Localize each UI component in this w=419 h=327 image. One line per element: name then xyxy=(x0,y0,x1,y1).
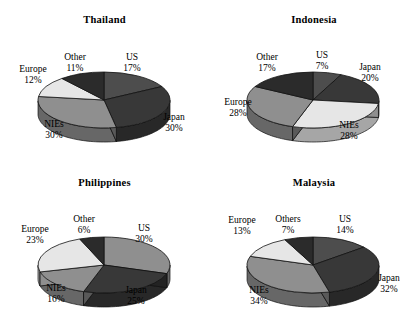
panel-indonesia: Indonesia Other 17% US 7% Japan 20% Euro… xyxy=(209,0,419,163)
label-indonesia-other: Other 17% xyxy=(245,52,289,74)
label-thailand-japan: Japan 30% xyxy=(152,112,196,134)
label-philippines-japan: Japan 25% xyxy=(114,285,158,307)
label-thailand-nies: NIEs 30% xyxy=(34,119,74,141)
label-malaysia-other: Others 7% xyxy=(265,214,311,236)
label-philippines-us: US 30% xyxy=(124,223,164,245)
label-philippines-europe: Europe 23% xyxy=(12,224,58,246)
label-indonesia-japan: Japan 20% xyxy=(348,62,392,84)
label-malaysia-us: US 14% xyxy=(325,214,365,236)
label-malaysia-europe: Europe 13% xyxy=(219,215,265,237)
label-philippines-other: Other 6% xyxy=(62,214,106,236)
label-indonesia-us: US 7% xyxy=(304,50,340,72)
label-philippines-nies: NIEs 16% xyxy=(36,283,76,305)
label-indonesia-nies: NIEs 28% xyxy=(329,120,369,142)
label-thailand-us: US 17% xyxy=(112,52,152,74)
label-thailand-other: Other 11% xyxy=(52,52,98,74)
panel-thailand: Thailand Other 11% US 17% Europe 12% NIE… xyxy=(0,0,209,163)
label-malaysia-nies: NIEs 34% xyxy=(239,285,279,307)
label-malaysia-japan: Japan 32% xyxy=(367,273,411,295)
panel-malaysia: Malaysia Europe 13% Others 7% US 14% NIE… xyxy=(209,163,419,327)
label-indonesia-europe: Europe 28% xyxy=(215,97,261,119)
panel-philippines: Philippines Other 6% US 30% Europe 23% N… xyxy=(0,163,209,327)
label-thailand-europe: Europe 12% xyxy=(12,64,54,86)
pie-chart-grid: Thailand Other 11% US 17% Europe 12% NIE… xyxy=(0,0,419,327)
